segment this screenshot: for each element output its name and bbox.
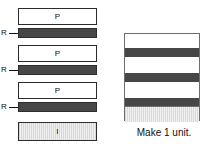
layer-label-i-1: I [56, 128, 58, 136]
layer-bar-p-2: P [18, 45, 97, 62]
diagram-canvas: P R P R P R [0, 0, 209, 151]
layer-bar-r-2 [18, 65, 97, 75]
layer-bar-i-1: I [18, 122, 97, 141]
layer-label-p-3: P [55, 87, 61, 95]
assembled-band-p-2 [125, 57, 199, 73]
layer-bar-r-1 [18, 28, 97, 38]
assembled-band-p-1 [125, 34, 199, 48]
assembly-caption: Make 1 unit. [124, 128, 204, 138]
assembled-band-p-3 [125, 82, 199, 98]
layer-bar-r-3 [18, 102, 97, 112]
assembled-band-i-1 [125, 106, 199, 122]
callout-label-r-3: R [1, 103, 7, 111]
assembled-band-r-2 [125, 73, 199, 82]
exploded-layer-stack: P R P R P R [0, 0, 110, 151]
assembled-unit-stack [124, 33, 200, 121]
layer-bar-p-3: P [18, 82, 97, 99]
layer-bar-p-1: P [18, 8, 97, 25]
callout-label-r-1: R [1, 29, 7, 37]
assembled-band-r-3 [125, 98, 199, 106]
layer-label-p-1: P [55, 13, 61, 21]
layer-label-p-2: P [55, 50, 61, 58]
assembled-band-r-1 [125, 48, 199, 57]
callout-label-r-2: R [1, 66, 7, 74]
